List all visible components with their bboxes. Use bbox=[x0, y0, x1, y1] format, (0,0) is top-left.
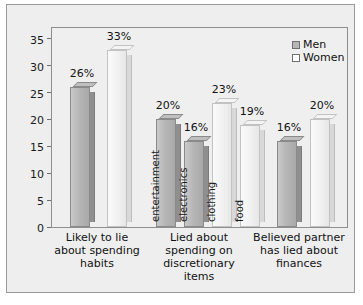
category-label-line: Likely to lie bbox=[45, 231, 149, 244]
category-label-line: Lied about bbox=[147, 231, 251, 244]
plot-frame: 26%33%entertainment20%electronics16%clot… bbox=[51, 27, 348, 228]
category-label-line: items bbox=[147, 270, 251, 283]
bar-front-face bbox=[277, 141, 297, 227]
bar-value-label: 33% bbox=[103, 30, 135, 43]
y-axis-tick-label: 10 bbox=[30, 168, 47, 181]
bar-side-face bbox=[260, 130, 265, 222]
bar-women-33 bbox=[107, 50, 127, 227]
y-axis-tick-label: 25 bbox=[30, 88, 47, 101]
bar-men-16: electronics bbox=[184, 141, 204, 227]
bar-side-face bbox=[127, 55, 132, 222]
bar-front-face: food bbox=[240, 125, 260, 227]
x-axis-category-labels: Likely to lieabout spendinghabitsLied ab… bbox=[51, 231, 348, 291]
bar-side-face bbox=[330, 124, 335, 222]
y-axis-tick-label: 35 bbox=[30, 34, 47, 47]
legend-label-women: Women bbox=[303, 51, 344, 64]
category-label-1: Lied aboutspending ondiscretionaryitems bbox=[147, 231, 251, 283]
y-axis-tick: 20 bbox=[30, 113, 51, 125]
bar-front-face bbox=[107, 50, 127, 227]
bar-top-face bbox=[280, 136, 305, 141]
y-axis-tick-label: 5 bbox=[37, 195, 47, 208]
bar-value-label: 19% bbox=[236, 105, 268, 118]
category-label-line: finances bbox=[247, 257, 351, 270]
bar-top-face bbox=[187, 136, 212, 141]
bar-inner-label: clothing bbox=[206, 182, 217, 222]
bar-value-label: 23% bbox=[208, 83, 240, 96]
category-label-line: spending on bbox=[147, 244, 251, 257]
bar-men-26 bbox=[70, 87, 90, 227]
y-axis-tick: 5 bbox=[37, 194, 51, 206]
bar-top-face bbox=[110, 45, 135, 50]
bar-value-label: 20% bbox=[306, 99, 338, 112]
category-label-2: Believed partnerhas lied aboutfinances bbox=[247, 231, 351, 270]
bar-women-19: food bbox=[240, 125, 260, 227]
bar-front-face: clothing bbox=[212, 103, 232, 227]
bar-top-face bbox=[243, 120, 268, 125]
legend-swatch-men-icon bbox=[292, 41, 300, 49]
bar-men-20: entertainment bbox=[156, 119, 176, 227]
category-label-line: discretionary bbox=[147, 257, 251, 270]
y-axis-tick: 25 bbox=[30, 87, 51, 99]
y-axis-tick: 10 bbox=[30, 167, 51, 179]
y-axis: 05101520253035 bbox=[7, 27, 51, 228]
bar-women-23: clothing bbox=[212, 103, 232, 227]
legend-item-men: Men bbox=[292, 38, 344, 51]
bar-value-label: 20% bbox=[152, 99, 184, 112]
category-label-line: habits bbox=[45, 257, 149, 270]
bar-women-20 bbox=[310, 119, 330, 227]
bar-value-label: 16% bbox=[273, 121, 305, 134]
bar-side-face bbox=[297, 146, 302, 222]
y-axis-tick-label: 20 bbox=[30, 114, 47, 127]
bar-men-16 bbox=[277, 141, 297, 227]
bar-front-face: entertainment bbox=[156, 119, 176, 227]
legend-item-women: Women bbox=[292, 51, 344, 64]
bar-inner-label: food bbox=[234, 200, 245, 222]
bar-top-face bbox=[215, 98, 240, 103]
y-axis-tick: 35 bbox=[30, 33, 51, 45]
category-label-line: has lied about bbox=[247, 244, 351, 257]
category-label-line: about spending bbox=[45, 244, 149, 257]
bar-inner-label: electronics bbox=[178, 168, 189, 222]
y-axis-tick: 15 bbox=[30, 140, 51, 152]
y-axis-tick-label: 30 bbox=[30, 61, 47, 74]
bar-top-face bbox=[73, 82, 98, 87]
bar-inner-label: entertainment bbox=[150, 150, 161, 222]
bar-value-label: 26% bbox=[66, 67, 98, 80]
category-label-line: Believed partner bbox=[247, 231, 351, 244]
legend-label-men: Men bbox=[303, 38, 326, 51]
bar-top-face bbox=[159, 114, 184, 119]
bar-value-label: 16% bbox=[180, 121, 212, 134]
legend-swatch-women-icon bbox=[292, 54, 300, 62]
y-axis-tick-label: 15 bbox=[30, 141, 47, 154]
bar-front-face bbox=[310, 119, 330, 227]
bar-side-face bbox=[90, 92, 95, 222]
chart-legend: Men Women bbox=[292, 38, 344, 64]
bar-front-face bbox=[70, 87, 90, 227]
bar-front-face: electronics bbox=[184, 141, 204, 227]
y-axis-tick: 30 bbox=[30, 60, 51, 72]
category-label-0: Likely to lieabout spendinghabits bbox=[45, 231, 149, 270]
chart-card: 05101520253035 26%33%entertainment20%ele… bbox=[6, 4, 355, 293]
bar-top-face bbox=[313, 114, 338, 119]
